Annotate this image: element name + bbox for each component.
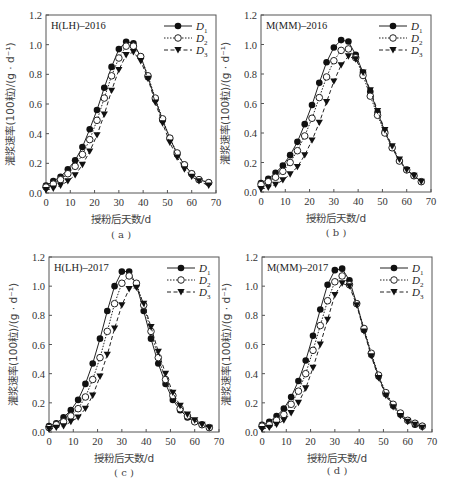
data-point <box>338 47 345 54</box>
data-point <box>126 286 133 292</box>
x-tick-label: 70 <box>211 197 222 208</box>
data-point <box>116 55 123 62</box>
data-point <box>67 419 74 425</box>
y-tick-label: 0.6 <box>29 99 42 110</box>
data-point <box>116 46 123 53</box>
data-point <box>331 57 338 64</box>
data-point <box>79 144 86 151</box>
data-point <box>86 126 93 133</box>
x-tick-label: 10 <box>68 436 79 447</box>
data-point <box>65 170 72 177</box>
x-tick-label: 40 <box>354 436 365 447</box>
data-point <box>86 148 93 154</box>
data-point <box>94 107 101 114</box>
data-point <box>64 178 71 184</box>
data-point <box>309 102 316 109</box>
y-tick-label: 0.6 <box>244 99 257 110</box>
panel-title: M(MM)–2016 <box>266 20 327 32</box>
data-point <box>104 328 111 335</box>
y-tick-label: 1.0 <box>32 281 45 292</box>
data-point <box>53 425 60 431</box>
x-tick-label: 20 <box>92 436 103 447</box>
data-point <box>82 381 89 388</box>
data-point <box>323 99 330 105</box>
y-tick-label: 0.6 <box>32 340 45 351</box>
x-tick-label: 0 <box>259 436 264 447</box>
data-point <box>257 186 264 192</box>
y-axis-label: 灌浆速率(100粒)/(g · d⁻¹) <box>220 283 232 406</box>
data-point <box>316 120 323 126</box>
data-point <box>317 322 324 329</box>
y-tick-label: 0.0 <box>244 187 257 198</box>
data-point <box>273 422 280 428</box>
data-point <box>332 267 339 274</box>
y-tick-label: 0.0 <box>29 188 42 199</box>
y-tick-label: 0.6 <box>245 340 258 351</box>
y-axis-label: 灌浆速率(100粒)/(g · d⁻¹) <box>4 42 16 165</box>
data-point <box>309 115 316 122</box>
data-point <box>86 136 93 143</box>
y-tick-label: 0.4 <box>245 369 259 380</box>
data-point <box>323 74 330 81</box>
y-tick-label: 1.0 <box>29 40 42 51</box>
series-D1 <box>259 265 426 429</box>
data-point <box>287 159 294 166</box>
x-tick-label: 10 <box>281 436 292 447</box>
legend-marker <box>390 23 397 30</box>
x-tick-label: 20 <box>89 197 100 208</box>
data-point <box>126 273 133 280</box>
data-point <box>266 425 273 431</box>
y-tick-label: 0.8 <box>244 69 257 80</box>
data-point <box>324 297 331 304</box>
data-point <box>294 139 301 146</box>
panel-caption: ( a ) <box>111 229 131 240</box>
panel-d: 0102030405060700.00.20.40.60.81.01.2M(MM… <box>220 252 437 476</box>
legend: D1D2D3 <box>167 262 211 301</box>
data-point <box>108 73 115 80</box>
x-tick-label: 50 <box>378 436 389 447</box>
panel-a: 0102030405060700.00.20.40.60.81.01.2H(LH… <box>4 10 221 240</box>
panel-title: H(LH)–2016 <box>51 20 106 32</box>
data-point <box>111 300 118 307</box>
y-tick-label: 1.2 <box>29 10 42 21</box>
y-tick-label: 1.2 <box>245 252 258 263</box>
data-point <box>72 163 79 170</box>
data-point <box>188 174 195 180</box>
data-point <box>345 38 352 45</box>
data-point <box>295 378 302 385</box>
legend-marker <box>175 35 182 42</box>
data-point <box>279 177 286 183</box>
legend-marker <box>178 265 185 272</box>
data-point <box>111 325 118 331</box>
data-point <box>301 121 308 128</box>
data-point <box>280 417 287 423</box>
y-tick-label: 0.2 <box>244 158 257 169</box>
data-point <box>265 178 272 185</box>
data-point <box>57 183 64 189</box>
data-point <box>104 308 111 315</box>
data-point <box>302 385 309 391</box>
data-point <box>308 137 315 143</box>
data-point <box>339 273 346 280</box>
data-point <box>108 88 115 94</box>
data-point <box>301 133 308 140</box>
x-tick-label: 20 <box>305 436 316 447</box>
data-point <box>89 376 96 383</box>
data-point <box>130 43 137 50</box>
data-point <box>316 80 323 87</box>
data-point <box>89 393 96 399</box>
panel-title: H(LH)–2017 <box>54 262 109 274</box>
legend-marker <box>391 265 398 272</box>
data-point <box>287 152 294 159</box>
data-point <box>280 168 287 175</box>
x-tick-label: 10 <box>280 196 291 207</box>
y-tick-label: 1.0 <box>245 281 258 292</box>
x-tick-label: 70 <box>427 436 438 447</box>
data-point <box>94 117 101 124</box>
series-D1 <box>46 268 213 431</box>
y-tick-label: 1.2 <box>244 10 257 21</box>
data-point <box>288 410 295 416</box>
legend: D1D2D3 <box>379 20 423 59</box>
data-point <box>79 162 86 168</box>
y-tick-label: 0.8 <box>32 310 45 321</box>
